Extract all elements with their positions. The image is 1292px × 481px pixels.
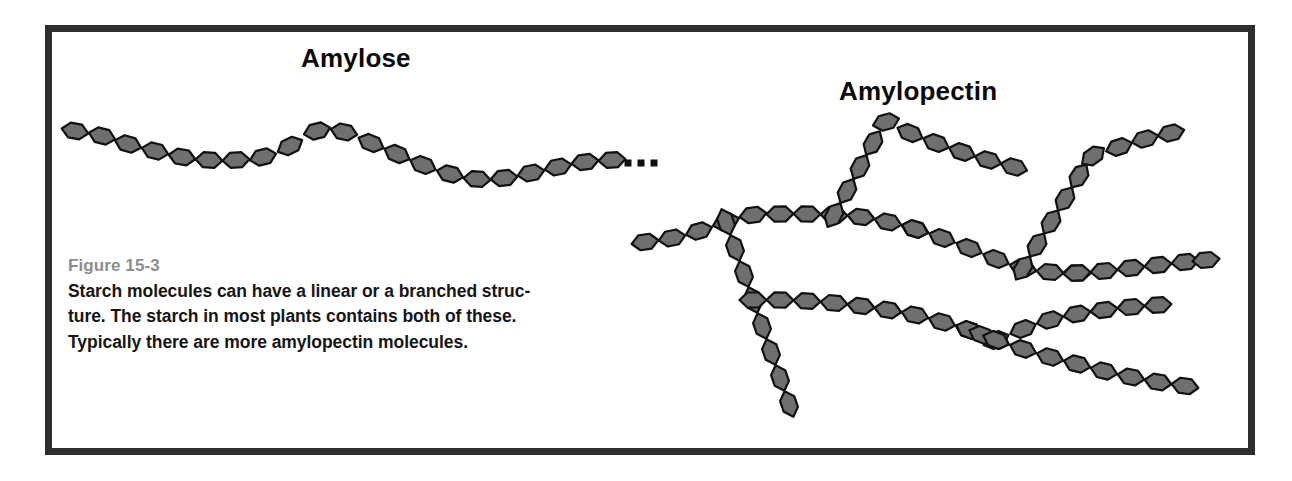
amylose-label: Amylose — [301, 43, 411, 74]
figure-caption: Figure 15-3 Starch molecules can have a … — [68, 256, 568, 356]
figure-border-frame — [45, 25, 1255, 455]
caption-line-1: Starch molecules can have a linear or a … — [68, 279, 538, 305]
caption-line-2: ture. The starch in most plants contains… — [68, 304, 538, 330]
caption-line-3: Typically there are more amylopectin mol… — [68, 330, 538, 356]
starch-structure-figure: Amylose Amylopectin Figure 15-3 Starch m… — [0, 0, 1292, 481]
figure-number: Figure 15-3 — [68, 256, 568, 277]
caption-text: Starch molecules can have a linear or a … — [68, 279, 538, 356]
amylopectin-label: Amylopectin — [839, 76, 997, 107]
